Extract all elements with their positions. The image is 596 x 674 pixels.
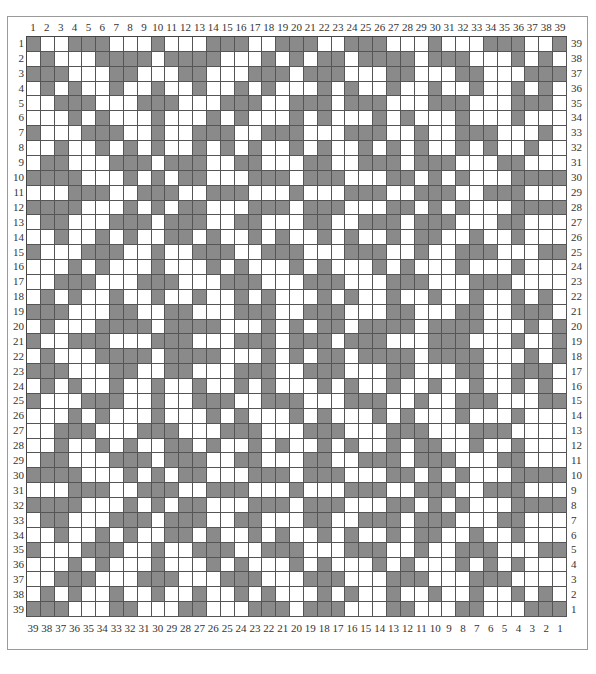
column-label: 16 <box>234 19 248 35</box>
grid-cell-empty <box>498 67 512 82</box>
grid-cell-empty <box>55 290 69 305</box>
grid-cell-filled <box>96 245 110 260</box>
grid-cell-filled <box>484 126 498 141</box>
grid-cell-filled <box>152 587 166 602</box>
grid-cell-empty <box>442 111 456 126</box>
grid-cell-filled <box>456 245 470 260</box>
grid-cell-filled <box>332 349 346 364</box>
grid-cell-empty <box>96 602 110 617</box>
grid-cell-empty <box>276 379 290 394</box>
grid-cell-filled <box>82 334 96 349</box>
grid-cell-empty <box>304 483 318 498</box>
grid-cell-filled <box>138 483 152 498</box>
row-label: 23 <box>569 274 589 289</box>
grid-cell-empty <box>82 201 96 216</box>
grid-cell-filled <box>373 513 387 528</box>
grid-cell-empty <box>138 290 152 305</box>
grid-cell-empty <box>69 543 83 558</box>
grid-cell-filled <box>152 543 166 558</box>
grid-cell-filled <box>512 305 526 320</box>
grid-cell-filled <box>498 453 512 468</box>
grid-cell-filled <box>193 513 207 528</box>
grid-cell-empty <box>401 543 415 558</box>
grid-cell-empty <box>304 141 318 156</box>
row-label: 6 <box>8 110 25 125</box>
grid-cell-filled <box>318 260 332 275</box>
grid-cell-filled <box>456 394 470 409</box>
grid-cell-filled <box>207 439 221 454</box>
grid-cell-empty <box>498 82 512 97</box>
grid-cell-empty <box>332 215 346 230</box>
grid-cell-filled <box>498 37 512 52</box>
grid-cell-empty <box>470 498 484 513</box>
grid-cell-filled <box>512 52 526 67</box>
grid-cell-empty <box>96 453 110 468</box>
grid-cell-empty <box>138 468 152 483</box>
row-label: 24 <box>569 259 589 274</box>
grid-cell-filled <box>179 468 193 483</box>
grid-cell-filled <box>456 111 470 126</box>
grid-cell-empty <box>221 52 235 67</box>
grid-cell-empty <box>96 498 110 513</box>
grid-cell-filled <box>221 483 235 498</box>
grid-cell-filled <box>221 245 235 260</box>
grid-cell-filled <box>484 394 498 409</box>
grid-cell-empty <box>276 572 290 587</box>
grid-cell-empty <box>249 111 263 126</box>
grid-cell-empty <box>249 394 263 409</box>
grid-cell-empty <box>456 215 470 230</box>
grid-cell-filled <box>276 394 290 409</box>
row-label: 9 <box>569 483 589 498</box>
grid-cell-empty <box>290 215 304 230</box>
grid-cell-empty <box>276 52 290 67</box>
grid-cell-empty <box>110 572 124 587</box>
grid-cell-empty <box>276 111 290 126</box>
grid-cell-filled <box>498 275 512 290</box>
grid-cell-filled <box>55 67 69 82</box>
grid-cell-empty <box>152 453 166 468</box>
grid-cell-empty <box>262 453 276 468</box>
grid-cell-filled <box>512 82 526 97</box>
grid-cell-empty <box>373 364 387 379</box>
grid-cell-empty <box>69 156 83 171</box>
grid-cell-filled <box>249 156 263 171</box>
grid-cell-filled <box>165 528 179 543</box>
grid-cell-empty <box>179 96 193 111</box>
grid-cell-empty <box>221 602 235 617</box>
grid-cell-filled <box>221 275 235 290</box>
grid-cell-empty <box>276 587 290 602</box>
grid-cell-empty <box>165 498 179 513</box>
grid-cell-empty <box>138 543 152 558</box>
grid-cell-filled <box>318 215 332 230</box>
grid-cell-filled <box>484 37 498 52</box>
grid-cell-filled <box>110 602 124 617</box>
grid-cell-filled <box>110 379 124 394</box>
grid-cell-filled <box>553 67 567 82</box>
grid-cell-empty <box>442 275 456 290</box>
grid-cell-filled <box>249 67 263 82</box>
grid-cell-filled <box>415 230 429 245</box>
grid-cell-filled <box>290 126 304 141</box>
grid-cell-filled <box>290 245 304 260</box>
grid-cell-filled <box>69 82 83 97</box>
grid-cell-filled <box>456 468 470 483</box>
grid-cell-empty <box>165 82 179 97</box>
grid-cell-empty <box>82 498 96 513</box>
grid-cell-empty <box>124 245 138 260</box>
grid-cell-filled <box>553 602 567 617</box>
grid-cell-empty <box>442 305 456 320</box>
grid-cell-filled <box>152 334 166 349</box>
grid-cell-filled <box>96 37 110 52</box>
grid-cell-filled <box>69 379 83 394</box>
row-label: 8 <box>569 498 589 513</box>
grid-cell-empty <box>69 245 83 260</box>
grid-cell-filled <box>249 334 263 349</box>
grid-cell-empty <box>539 528 553 543</box>
grid-cell-filled <box>262 602 276 617</box>
grid-cell-filled <box>193 587 207 602</box>
grid-cell-filled <box>124 230 138 245</box>
grid-cell-filled <box>470 587 484 602</box>
grid-cell-filled <box>456 349 470 364</box>
grid-cell-filled <box>318 528 332 543</box>
grid-cell-filled <box>539 52 553 67</box>
